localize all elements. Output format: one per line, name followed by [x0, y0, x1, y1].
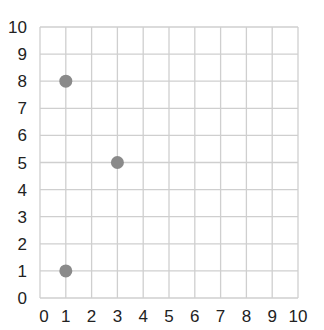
- data-point: [59, 264, 72, 277]
- x-tick-label: 5: [164, 307, 173, 326]
- x-tick-label: 0: [39, 307, 48, 326]
- scatter-chart: 012345678910 012345678910: [0, 0, 324, 330]
- x-tick-label: 1: [61, 307, 70, 326]
- y-tick-label: 4: [18, 181, 27, 200]
- grid-lines: [40, 27, 298, 298]
- y-tick-label: 5: [18, 154, 27, 173]
- y-tick-label: 7: [18, 99, 27, 118]
- x-tick-label: 9: [267, 307, 276, 326]
- x-tick-label: 8: [242, 307, 251, 326]
- x-tick-label: 7: [216, 307, 225, 326]
- data-point: [111, 156, 124, 169]
- data-point: [59, 75, 72, 88]
- y-tick-label: 3: [18, 208, 27, 227]
- y-tick-label: 1: [18, 262, 27, 281]
- x-tick-label: 6: [190, 307, 199, 326]
- y-tick-label: 8: [18, 72, 27, 91]
- y-tick-label: 2: [18, 235, 27, 254]
- y-tick-label: 0: [18, 289, 27, 308]
- y-axis-tick-labels: 012345678910: [8, 18, 27, 308]
- x-tick-label: 10: [289, 307, 308, 326]
- x-tick-label: 4: [138, 307, 147, 326]
- x-tick-label: 3: [113, 307, 122, 326]
- x-tick-label: 2: [87, 307, 96, 326]
- x-axis-tick-labels: 012345678910: [39, 307, 307, 326]
- y-tick-label: 10: [8, 18, 27, 37]
- y-tick-label: 9: [18, 45, 27, 64]
- y-tick-label: 6: [18, 126, 27, 145]
